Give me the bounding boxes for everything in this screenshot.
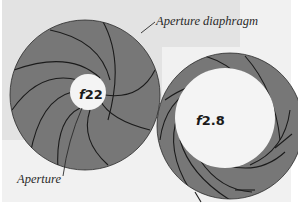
label-aperture: Aperture <box>16 172 61 186</box>
aperture-diagram: Aperture diaphragm Aperture f22 f2.8 <box>0 0 298 210</box>
aperture-opening-f2.8 <box>175 68 275 168</box>
f-number-f2.8: f2.8 <box>196 113 225 128</box>
diagram-canvas: Aperture diaphragm Aperture f22 f2.8 <box>0 0 298 210</box>
label-aperture-diaphragm: Aperture diaphragm <box>155 14 258 28</box>
f-number-f22: f22 <box>79 87 103 102</box>
